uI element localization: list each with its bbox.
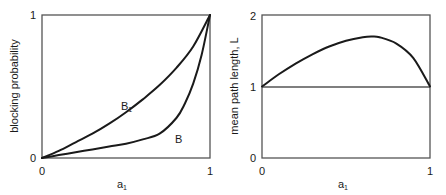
series-b1-label: B1 (121, 100, 132, 113)
y-axis-label: mean path length, L (228, 37, 240, 134)
x-tick-1: 1 (427, 165, 433, 177)
series-b1-curve (42, 15, 210, 158)
blocking-probability-chart: 1 0 0 1 a1 blocking probability B1 B (8, 9, 213, 191)
y-tick-1: 1 (250, 81, 256, 93)
y-tick-0: 0 (250, 152, 256, 164)
x-axis-label: a1 (117, 178, 127, 191)
x-tick-0: 0 (39, 165, 45, 177)
mean-path-length-chart: 2 1 0 0 1 a1 mean path length, L (228, 10, 433, 191)
x-axis-label: a1 (338, 178, 348, 191)
x-tick-1: 1 (207, 165, 213, 177)
series-l-curve (262, 36, 430, 86)
y-tick-0: 0 (30, 152, 36, 164)
figure: 1 0 0 1 a1 blocking probability B1 B 2 1… (0, 0, 446, 195)
y-tick-1: 1 (30, 9, 36, 21)
series-b-label: B (175, 133, 182, 145)
x-tick-0: 0 (259, 165, 265, 177)
y-axis-label: blocking probability (8, 39, 20, 133)
plot-frame (42, 15, 210, 158)
y-tick-2: 2 (250, 10, 256, 22)
series-b-curve (42, 15, 210, 158)
